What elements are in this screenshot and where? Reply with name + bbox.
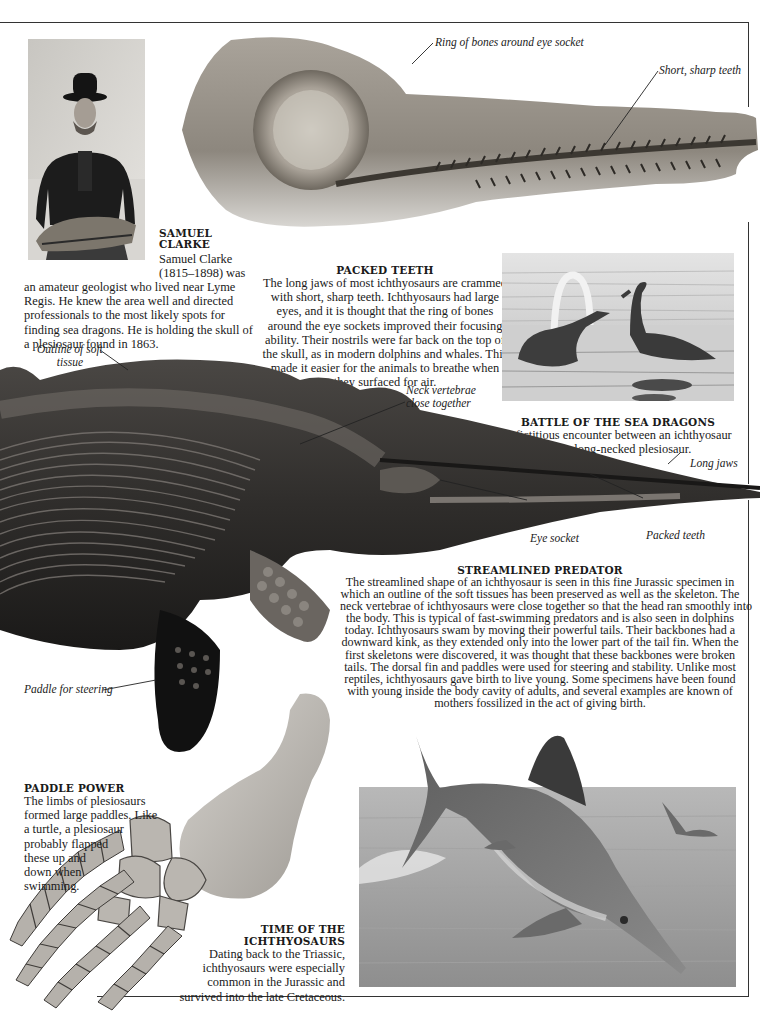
time-of-title-line1: TIME OF THE — [180, 924, 345, 936]
label-neck-line2: close together — [406, 397, 476, 410]
paddle-power-text: The limbs of plesiosaurs formed large pa… — [24, 794, 157, 893]
label-long-jaws: Long jaws — [690, 457, 738, 469]
streamlined-line: tails. The dorsal fin and paddles were u… — [340, 661, 740, 673]
time-of-line: ichthyosaurs were especially — [160, 961, 345, 975]
label-outline-line2: tissue — [37, 356, 103, 369]
paddle-power-line: a turtle, a plesiosaur — [24, 822, 157, 836]
paddle-power-line: swimming. — [24, 879, 157, 893]
paddle-power-line: these up and — [24, 851, 157, 865]
time-of-title-line2: ICHTHYOSAURS — [180, 936, 345, 948]
packed-teeth-title: PACKED TEETH — [260, 264, 510, 276]
time-of-title: TIME OF THE ICHTHYOSAURS — [180, 924, 345, 947]
label-packed-teeth: Packed teeth — [646, 529, 705, 541]
samuel-clarke-side-line2: (1815–1898) was — [159, 266, 245, 280]
streamlined-line: mothers fossilized in the act of giving … — [340, 697, 740, 709]
time-of-text: Dating back to the Triassic, ichthyosaur… — [160, 947, 345, 1004]
label-short-sharp-teeth: Short, sharp teeth — [659, 64, 741, 76]
paddle-power-line: formed large paddles. Like — [24, 808, 157, 822]
paddle-power-title: PADDLE POWER — [24, 782, 125, 794]
streamlined-line: first skeletons were discovered, it was … — [340, 649, 740, 661]
label-outline-line1: Outline of soft — [37, 343, 103, 356]
label-neck-line1: Neck vertebrae — [406, 384, 476, 397]
label-outline-soft-tissue: Outline of soft tissue — [37, 343, 103, 369]
paddle-power-line: probably flapped — [24, 837, 157, 851]
ichthyosaur-painting — [356, 728, 741, 990]
skull-leader-lines — [0, 0, 760, 260]
time-of-line: common in the Jurassic and — [160, 975, 345, 989]
streamlined-text: The streamlined shape of an ichthyosaur … — [340, 576, 740, 709]
paddle-power-line: The limbs of plesiosaurs — [24, 794, 157, 808]
streamlined-line: downward kink, as they extended only int… — [340, 636, 740, 648]
time-of-line: Dating back to the Triassic, — [160, 947, 345, 961]
label-neck-vertebrae: Neck vertebrae close together — [406, 384, 476, 410]
time-of-line: survived into the late Cretaceous. — [160, 990, 345, 1004]
label-ring-of-bones: Ring of bones around eye socket — [435, 36, 584, 48]
label-eye-socket: Eye socket — [530, 532, 579, 544]
paddle-power-line: down when — [24, 865, 157, 879]
